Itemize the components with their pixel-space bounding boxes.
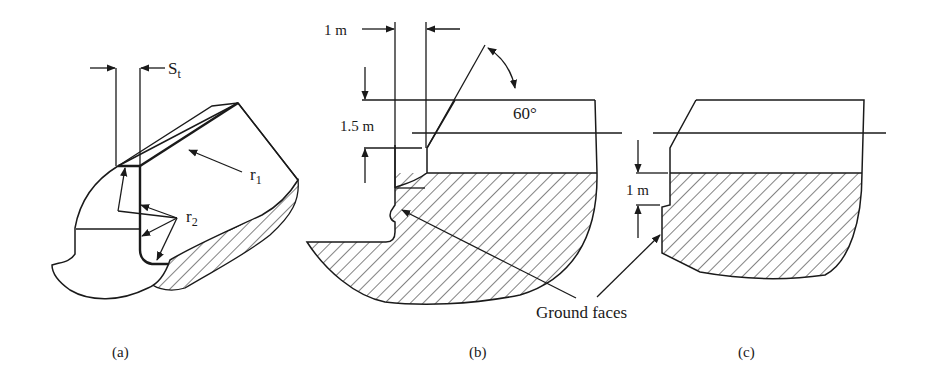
panel-c-label-height: 1 m (626, 182, 649, 198)
panel-b-label-height: 1.5 m (340, 118, 375, 134)
panel-c-caption: (c) (738, 344, 755, 361)
panel-a: St r1 r2 (a) (52, 59, 298, 361)
panel-a-caption: (a) (112, 344, 129, 361)
panel-b-caption: (b) (469, 344, 487, 361)
panel-b-angle-arc (488, 48, 515, 88)
ground-faces-leader-c (597, 235, 660, 297)
panel-b-label-angle: 60° (513, 104, 537, 123)
panel-b-label-width: 1 m (324, 22, 347, 38)
panel-a-label-st: St (168, 59, 181, 81)
panel-b-hatched-section (307, 173, 597, 304)
panel-c-hatched-section (662, 173, 862, 278)
tool-geometry-diagram: St r1 r2 (a) 60° 1 m 1.5 m (0, 0, 928, 385)
ground-faces-label: Ground faces (536, 303, 627, 322)
panel-c: 1 m (c) (626, 100, 886, 361)
